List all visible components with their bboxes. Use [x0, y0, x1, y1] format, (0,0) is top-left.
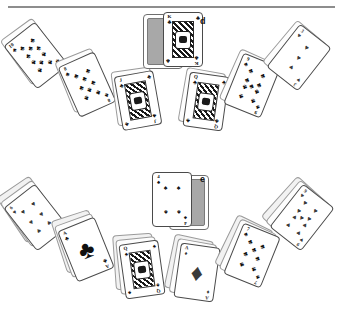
- card-pip-field: ♦: [181, 251, 212, 293]
- card-pip: ♠: [164, 208, 168, 215]
- card-pip: ♥: [30, 200, 38, 208]
- card-pip: ♥: [306, 214, 314, 222]
- card-pip-field: ♣: [67, 227, 106, 273]
- card-pip: ♣: [250, 265, 257, 273]
- card-pip: ♠: [164, 184, 168, 191]
- card-pip: ♥: [311, 207, 319, 215]
- face-card-suit-mark: ♠: [128, 290, 132, 296]
- card-pip-field: ♠♠♠♠: [159, 180, 185, 219]
- group-label-e: e: [200, 174, 205, 184]
- card-pip: ♣: [74, 235, 98, 263]
- playing-card-queen-of-spades[interactable]: Q♠Q♠♠♠: [118, 239, 165, 299]
- card-pip: ♥: [35, 227, 43, 235]
- face-card-art: [129, 250, 156, 290]
- card-pip: ♣: [238, 261, 245, 269]
- card-pip: ♣: [243, 249, 250, 257]
- card-pip: ♥: [19, 208, 27, 216]
- card-pip: ♥: [27, 217, 35, 225]
- card-pip: ♣: [251, 246, 258, 254]
- card-pip: ♥: [37, 209, 45, 217]
- playing-card-four-of-spades-center[interactable]: 4♠4♠♠♠♠♠: [152, 172, 192, 227]
- card-pip: ♥: [284, 221, 292, 229]
- card-pip: ♥: [295, 229, 303, 237]
- card-pip: ♠: [177, 184, 181, 191]
- card-pip: ♥: [301, 199, 309, 207]
- card-pip: ♣: [255, 254, 262, 262]
- card-layout-figure: 10♣10♣♣♣♣♣♣♣♣♣♣♣8♣8♣♣♣♣♣♣♣♣♣J♣J♣♣♣K♣K♣♣♣…: [0, 0, 343, 318]
- card-pip: ♥: [290, 213, 298, 221]
- card-pip: ♦: [189, 260, 204, 285]
- playing-card-ace-of-diamonds[interactable]: A♦A♦♦: [173, 242, 220, 302]
- card-pip-field: ♣♣♣♣♣♣♣: [233, 233, 272, 279]
- group-label-d: d: [200, 16, 206, 26]
- card-pip: ♠: [177, 208, 181, 215]
- card-pip: ♣: [247, 237, 254, 245]
- card-pip: ♣: [259, 242, 266, 250]
- card-group-e: 6♥6♥♥♥♥♥♥♥A♣A♣♣Q♠Q♠♠♠4♠4♠♠♠♠♠A♦A♦♦7♣7♣♣♣…: [0, 0, 343, 318]
- face-card-suit-mark: ♠: [152, 243, 156, 249]
- card-pip: ♥: [300, 221, 308, 229]
